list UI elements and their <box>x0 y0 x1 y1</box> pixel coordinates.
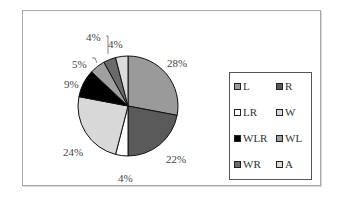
data-label-wlr: 9% <box>64 78 79 90</box>
legend-item-wlr: WLR <box>234 132 267 144</box>
legend-item-w: W <box>276 106 295 118</box>
data-label-r: 22% <box>166 153 186 165</box>
pie-slice-r <box>128 106 177 156</box>
legend-swatch-r <box>276 83 283 90</box>
legend-item-wl: WL <box>276 132 302 144</box>
legend-label: L <box>243 80 250 92</box>
legend-swatch-lr <box>234 109 241 116</box>
legend-swatch-wr <box>234 161 241 168</box>
legend-item-lr: LR <box>234 106 257 118</box>
legend-item-wr: WR <box>234 158 261 170</box>
data-label-a: 4% <box>108 38 123 50</box>
legend-label: WLR <box>243 132 267 144</box>
legend-item-a: A <box>276 158 293 170</box>
legend-label: W <box>285 106 295 118</box>
legend-label: R <box>285 80 292 92</box>
legend-item-l: L <box>234 80 250 92</box>
legend-label: WR <box>243 158 261 170</box>
legend-swatch-wlr <box>234 135 241 142</box>
legend-swatch-wl <box>276 135 283 142</box>
legend-label: LR <box>243 106 257 118</box>
legend-label: WL <box>285 132 302 144</box>
data-label-lr: 4% <box>118 172 133 184</box>
data-label-l: 28% <box>167 57 187 69</box>
data-label-wl: 5% <box>72 58 87 70</box>
legend-label: A <box>285 158 293 170</box>
legend: LRLRWWLRWLWRA <box>229 72 312 180</box>
data-label-wr: 4% <box>86 31 101 43</box>
legend-swatch-a <box>276 161 283 168</box>
legend-swatch-l <box>234 83 241 90</box>
legend-swatch-w <box>276 109 283 116</box>
leader-line-wl <box>92 58 97 63</box>
data-label-w: 24% <box>63 146 83 158</box>
legend-item-r: R <box>276 80 292 92</box>
